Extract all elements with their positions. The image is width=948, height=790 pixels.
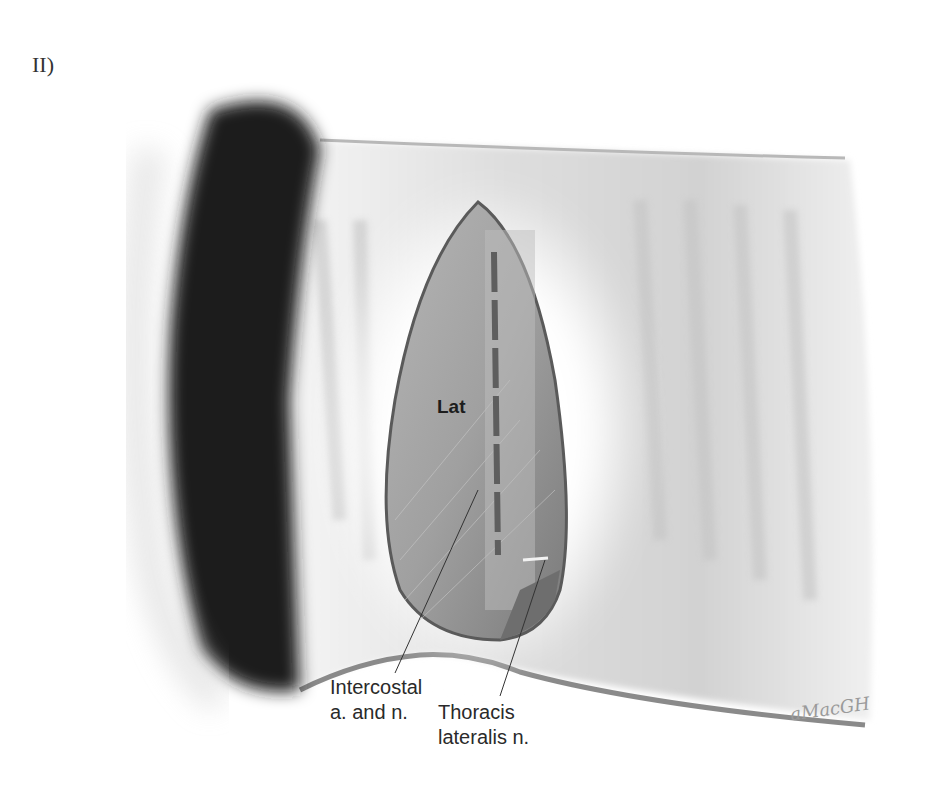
- lat-label: Lat: [437, 396, 466, 418]
- label-intercostal-line1: Intercostal: [330, 675, 422, 700]
- label-thoracis-line2: lateralis n.: [438, 725, 529, 750]
- label-thoracis: Thoracis lateralis n.: [438, 700, 529, 750]
- label-thoracis-line1: Thoracis: [438, 700, 529, 725]
- label-intercostal: Intercostal a. and n.: [330, 675, 422, 725]
- illustration-canvas: [0, 0, 948, 790]
- anatomical-illustration: II) Lat Intercostal a. and n. Thoracis l…: [0, 0, 948, 790]
- label-intercostal-line2: a. and n.: [330, 700, 422, 725]
- axillary-hair: [135, 101, 320, 700]
- panel-label: II): [32, 52, 54, 78]
